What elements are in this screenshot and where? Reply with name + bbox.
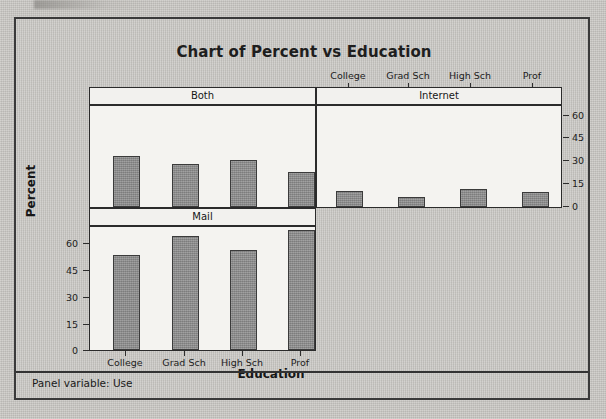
bar-mail-high-sch <box>230 250 257 350</box>
left-axis-tick-label-45: 45 <box>54 265 78 276</box>
right-axis-tick-mark <box>563 115 569 116</box>
scan-artifact <box>34 0 154 9</box>
left-axis-tick-mark <box>83 350 89 351</box>
plot-panel-mail <box>89 226 316 351</box>
panel-variable-note: Panel variable: Use <box>32 377 133 389</box>
right-axis-tick-mark <box>563 183 569 184</box>
bottom-axis-tick-mark <box>184 351 185 356</box>
right-axis-tick-mark <box>563 160 569 161</box>
bar-both-high-sch <box>230 160 257 207</box>
bar-internet-prof <box>522 192 549 207</box>
chart-page: Chart of Percent vs Education College Gr… <box>0 0 606 419</box>
right-axis-tick-label-45: 45 <box>572 132 592 143</box>
bottom-axis-tick-mark <box>242 351 243 356</box>
panel-header-both: Both <box>89 87 316 105</box>
x-axis-title: Education <box>206 367 336 381</box>
right-axis-tick-mark <box>563 206 569 207</box>
left-axis-tick-label-0: 0 <box>54 345 78 356</box>
top-axis-tick-label-high-sch: High Sch <box>437 70 503 81</box>
y-axis-title: Percent <box>24 151 38 231</box>
panel-header-internet: Internet <box>316 87 562 105</box>
bar-mail-prof <box>288 230 315 350</box>
bar-both-prof <box>288 172 315 207</box>
bar-mail-grad-sch <box>172 236 199 350</box>
bar-internet-college <box>336 191 363 207</box>
plot-panel-internet <box>316 105 562 208</box>
chart-frame: Chart of Percent vs Education College Gr… <box>14 17 590 400</box>
bar-mail-college <box>113 255 140 350</box>
bar-internet-high-sch <box>460 189 487 207</box>
right-axis-tick-label-30: 30 <box>572 155 592 166</box>
right-axis-tick-label-0: 0 <box>572 201 592 212</box>
top-axis-tick-label-college: College <box>317 70 379 81</box>
bar-both-grad-sch <box>172 164 199 207</box>
right-axis-tick-label-15: 15 <box>572 178 592 189</box>
bar-internet-grad-sch <box>398 197 425 207</box>
left-axis-tick-label-15: 15 <box>54 319 78 330</box>
right-axis-tick-mark <box>563 137 569 138</box>
top-axis-tick-label-grad-sch: Grad Sch <box>375 70 441 81</box>
right-axis-tick-label-60: 60 <box>572 110 592 121</box>
panel-header-mail: Mail <box>89 208 316 226</box>
bottom-axis-tick-mark <box>125 351 126 356</box>
bottom-axis-tick-label-college: College <box>95 357 155 368</box>
left-axis-tick-mark <box>83 270 89 271</box>
left-axis-tick-mark <box>83 297 89 298</box>
bar-both-college <box>113 156 140 208</box>
left-axis-tick-label-60: 60 <box>54 238 78 249</box>
top-axis-tick-label-prof: Prof <box>503 70 561 81</box>
footnote-divider <box>16 371 588 373</box>
plot-panel-both <box>89 105 316 208</box>
left-axis-tick-label-30: 30 <box>54 292 78 303</box>
left-axis-tick-mark <box>83 243 89 244</box>
bottom-axis-tick-mark <box>300 351 301 356</box>
chart-title: Chart of Percent vs Education <box>16 43 592 61</box>
left-axis-tick-mark <box>83 324 89 325</box>
